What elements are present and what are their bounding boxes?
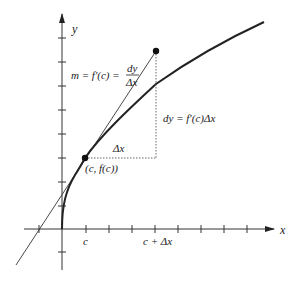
tick-label-c-plus-dx: c + Δx xyxy=(143,235,172,247)
slope-label: m = f′(c) = xyxy=(71,69,120,82)
delta-x-label: Δx xyxy=(112,142,124,154)
slope-fraction-denominator: Δx xyxy=(125,76,137,88)
point-of-tangency xyxy=(82,155,88,161)
x-axis-label: x xyxy=(279,223,286,237)
tangent-endpoint xyxy=(153,48,159,54)
diagram-canvas: x y c c + Δx m = f′(c) = dy Δx dy = f′(c… xyxy=(0,0,299,283)
point-label: (c, f(c)) xyxy=(85,162,118,175)
dy-label: dy = f′(c)Δx xyxy=(163,112,215,125)
y-axis-label: y xyxy=(71,22,78,36)
function-curve xyxy=(62,22,264,229)
tick-label-c: c xyxy=(83,235,88,247)
y-axis xyxy=(58,14,66,270)
slope-fraction-numerator: dy xyxy=(127,62,138,74)
